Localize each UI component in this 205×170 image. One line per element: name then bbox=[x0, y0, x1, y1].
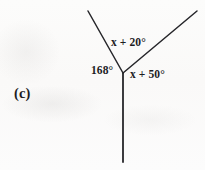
part-label: (c) bbox=[14, 86, 30, 101]
geometry-figure: (c) x + 20° 168° x + 50° bbox=[0, 0, 205, 170]
right-angle-label: x + 50° bbox=[130, 69, 165, 81]
left-angle-label: 168° bbox=[91, 65, 113, 77]
angle-diagram-svg bbox=[0, 0, 205, 170]
upper-angle-label: x + 20° bbox=[111, 37, 146, 49]
